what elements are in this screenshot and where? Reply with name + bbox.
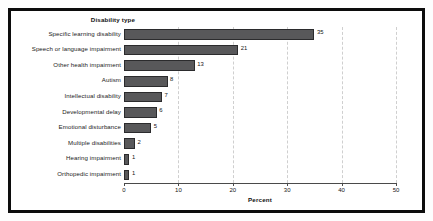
bar-row: Speech or language impairment21 bbox=[11, 43, 422, 59]
category-label: Other health impairment bbox=[17, 61, 121, 68]
plot-area: Specific learning disability35Speech or … bbox=[11, 11, 422, 210]
bar-rows: Specific learning disability35Speech or … bbox=[11, 27, 422, 183]
x-tick-mark bbox=[124, 183, 125, 186]
category-label: Orthopedic impairment bbox=[17, 170, 121, 177]
bar-row: Orthopedic impairment1 bbox=[11, 167, 422, 183]
bar-container bbox=[124, 154, 129, 165]
bar bbox=[124, 60, 195, 71]
category-label: Developmental delay bbox=[17, 108, 121, 115]
x-axis-title: Percent bbox=[124, 196, 396, 203]
category-label: Hearing impairment bbox=[17, 154, 121, 161]
bar-value-label: 5 bbox=[154, 123, 157, 129]
bar-value-label: 1 bbox=[132, 154, 135, 160]
bar-container bbox=[124, 76, 168, 87]
x-tick-label: 0 bbox=[122, 187, 125, 193]
x-tick-label: 40 bbox=[338, 187, 345, 193]
bar bbox=[124, 138, 135, 149]
bar bbox=[124, 170, 129, 181]
bar-value-label: 1 bbox=[132, 170, 135, 176]
x-tick-label: 50 bbox=[393, 187, 400, 193]
bar-container bbox=[124, 138, 135, 149]
x-tick-mark bbox=[287, 183, 288, 186]
x-tick-label: 10 bbox=[175, 187, 182, 193]
bar-value-label: 8 bbox=[170, 76, 173, 82]
bar-value-label: 2 bbox=[137, 139, 140, 145]
bar-container bbox=[124, 123, 151, 134]
bar-row: Hearing impairment1 bbox=[11, 152, 422, 168]
bar-container bbox=[124, 60, 195, 71]
category-label: Multiple disabilities bbox=[17, 139, 121, 146]
category-label: Intellectual disability bbox=[17, 92, 121, 99]
bar-container bbox=[124, 107, 157, 118]
bar-value-label: 13 bbox=[197, 61, 204, 67]
bar bbox=[124, 107, 157, 118]
bar-container bbox=[124, 170, 129, 181]
bar-value-label: 35 bbox=[317, 29, 324, 35]
bar bbox=[124, 154, 129, 165]
bar-row: Specific learning disability35 bbox=[11, 27, 422, 43]
bar-row: Autism8 bbox=[11, 74, 422, 90]
category-label: Autism bbox=[17, 76, 121, 83]
bar-row: Intellectual disability7 bbox=[11, 89, 422, 105]
bar-value-label: 6 bbox=[159, 107, 162, 113]
bar bbox=[124, 45, 238, 56]
bar bbox=[124, 92, 162, 103]
chart-figure: Disability type Specific learning disabi… bbox=[0, 0, 433, 221]
x-tick-mark bbox=[233, 183, 234, 186]
bar-value-label: 7 bbox=[165, 92, 168, 98]
bar bbox=[124, 29, 314, 40]
x-tick-mark bbox=[342, 183, 343, 186]
bar-container bbox=[124, 92, 162, 103]
category-label: Speech or language impairment bbox=[17, 45, 121, 52]
bar-row: Emotional disturbance5 bbox=[11, 121, 422, 137]
x-tick-label: 20 bbox=[229, 187, 236, 193]
bar-row: Developmental delay6 bbox=[11, 105, 422, 121]
bar-container bbox=[124, 29, 314, 40]
bar-row: Other health impairment13 bbox=[11, 58, 422, 74]
x-axis-ticks: 01020304050 bbox=[124, 183, 396, 197]
category-label: Emotional disturbance bbox=[17, 123, 121, 130]
x-tick-mark bbox=[396, 183, 397, 186]
bar-row: Multiple disabilities2 bbox=[11, 136, 422, 152]
chart-frame: Disability type Specific learning disabi… bbox=[8, 8, 425, 213]
bar-value-label: 21 bbox=[241, 45, 248, 51]
x-tick-label: 30 bbox=[284, 187, 291, 193]
x-tick-mark bbox=[178, 183, 179, 186]
bar bbox=[124, 123, 151, 134]
category-label: Specific learning disability bbox=[17, 30, 121, 37]
bar-container bbox=[124, 45, 238, 56]
bar bbox=[124, 76, 168, 87]
